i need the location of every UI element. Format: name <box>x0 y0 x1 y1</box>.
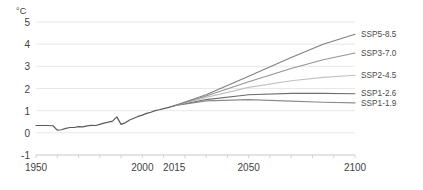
historical-line <box>36 106 174 130</box>
legend-label-ssp1-2.6: SSP1-2.6 <box>361 89 396 98</box>
climate-projection-chart: °C 543210-1 19502000201520502100 SSP5-8.… <box>0 0 423 190</box>
legend-label-ssp5-8.5: SSP5-8.5 <box>361 30 396 39</box>
legend-label-ssp2-4.5: SSP2-4.5 <box>361 71 396 80</box>
legend-label-ssp1-1.9: SSP1-1.9 <box>361 98 396 107</box>
series-line-ssp1-2.6 <box>174 93 355 105</box>
legend-label-ssp3-7.0: SSP3-7.0 <box>361 49 396 58</box>
series-line-ssp5-8.5 <box>174 34 355 106</box>
plot-area <box>0 0 423 190</box>
series-line-ssp3-7.0 <box>174 53 355 106</box>
